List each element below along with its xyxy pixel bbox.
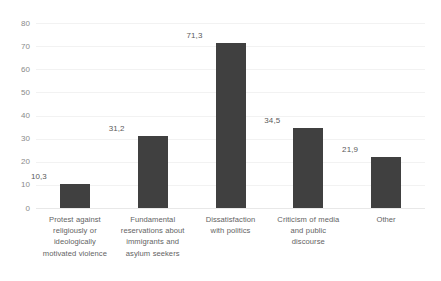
y-tick-label: 70 (0, 42, 30, 51)
x-axis-category-labels: Protest againstreligiously orideological… (36, 214, 425, 276)
category-label: Other (347, 214, 425, 225)
category-label-line: immigrants and (114, 236, 192, 247)
y-tick-label: 30 (0, 134, 30, 143)
y-tick-label: 20 (0, 157, 30, 166)
bar-chart: 80706050403020100 Protest againstreligio… (0, 0, 441, 281)
category-label: Criticism of mediaand publicdiscourse (269, 214, 347, 248)
category-label-line: Other (347, 214, 425, 225)
category-label-line: Protest against (36, 214, 114, 225)
bar-value-label: 10,3 (9, 172, 69, 181)
bar[interactable] (216, 43, 246, 208)
bar-value-label: 34,5 (242, 116, 302, 125)
category-label-line: discourse (269, 236, 347, 247)
category-label: Fundamentalreservations aboutimmigrants … (114, 214, 192, 259)
y-tick-label: 80 (0, 19, 30, 28)
category-label-line: and public (269, 225, 347, 236)
category-label-line: asylum seekers (114, 248, 192, 259)
bar[interactable] (293, 128, 323, 208)
category-label-line: ideologically (36, 236, 114, 247)
category-label: Protest againstreligiously orideological… (36, 214, 114, 259)
category-label: Dissatisfactionwith politics (192, 214, 270, 236)
category-label-line: Dissatisfaction (192, 214, 270, 225)
y-tick-label: 40 (0, 111, 30, 120)
category-label-line: motivated violence (36, 248, 114, 259)
bar-value-label: 21,9 (320, 145, 380, 154)
y-tick-label: 0 (0, 204, 30, 213)
plot-area (36, 23, 425, 208)
axis-baseline (36, 208, 425, 209)
y-tick-label: 10 (0, 180, 30, 189)
category-label-line: religiously or (36, 225, 114, 236)
gridline (36, 23, 425, 24)
category-label-line: reservations about (114, 225, 192, 236)
bar[interactable] (138, 136, 168, 208)
bar-value-label: 31,2 (87, 124, 147, 133)
category-label-line: with politics (192, 225, 270, 236)
y-tick-label: 60 (0, 65, 30, 74)
bar-value-label: 71,3 (165, 31, 225, 40)
y-axis: 80706050403020100 (0, 0, 34, 281)
category-label-line: Fundamental (114, 214, 192, 225)
bar[interactable] (60, 184, 90, 208)
y-tick-label: 50 (0, 88, 30, 97)
bar[interactable] (371, 157, 401, 208)
category-label-line: Criticism of media (269, 214, 347, 225)
